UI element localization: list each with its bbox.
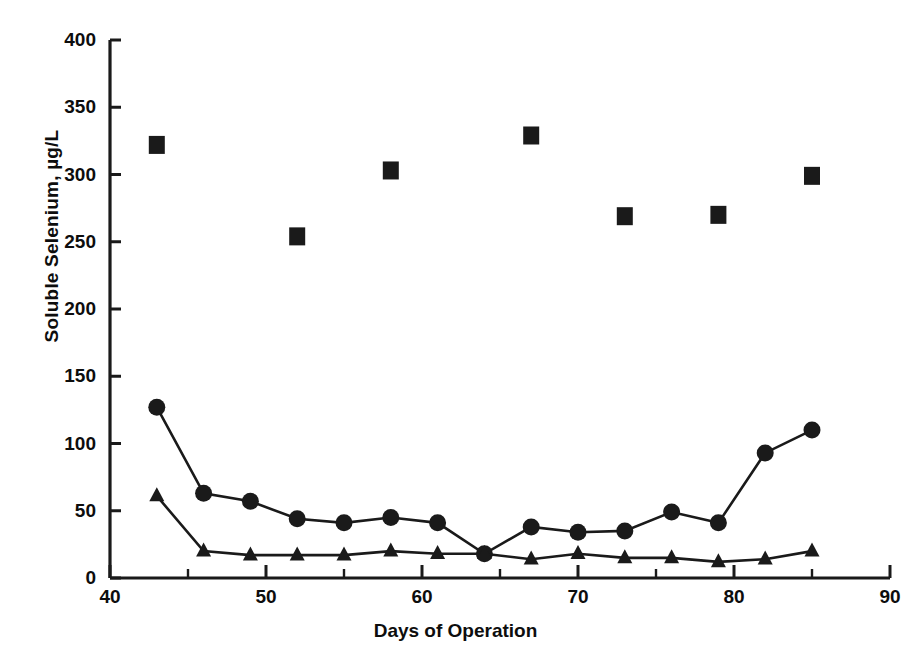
data-point-circle (382, 509, 399, 526)
data-point-circle (289, 510, 306, 527)
data-point-triangle (664, 549, 679, 563)
series-circle-series (148, 399, 820, 563)
data-point-triangle (290, 546, 305, 560)
data-point-square (523, 126, 539, 144)
data-point-square (617, 207, 633, 225)
data-point-circle (570, 524, 587, 541)
data-point-circle (195, 485, 212, 502)
data-point-circle (710, 514, 727, 531)
data-point-square (289, 227, 305, 245)
data-point-circle (336, 514, 353, 531)
data-point-circle (616, 522, 633, 539)
data-point-triangle (383, 542, 398, 556)
data-point-square (710, 206, 726, 224)
data-point-circle (757, 444, 774, 461)
data-point-triangle (149, 487, 164, 501)
data-point-square (383, 161, 399, 179)
data-point-triangle (571, 545, 586, 559)
data-point-triangle (430, 545, 445, 559)
plot-area (0, 0, 911, 657)
data-point-circle (804, 422, 821, 439)
chart-figure: Soluble Selenium, µg/L Days of Operation… (0, 0, 911, 657)
data-point-circle (523, 518, 540, 535)
data-point-square (804, 167, 820, 185)
series-line (157, 407, 812, 554)
data-point-circle (148, 399, 165, 416)
series-square-series (149, 126, 820, 245)
data-point-triangle (805, 542, 820, 556)
data-point-circle (242, 493, 259, 510)
data-point-circle (429, 514, 446, 531)
data-point-square (149, 136, 165, 154)
data-point-circle (663, 504, 680, 521)
